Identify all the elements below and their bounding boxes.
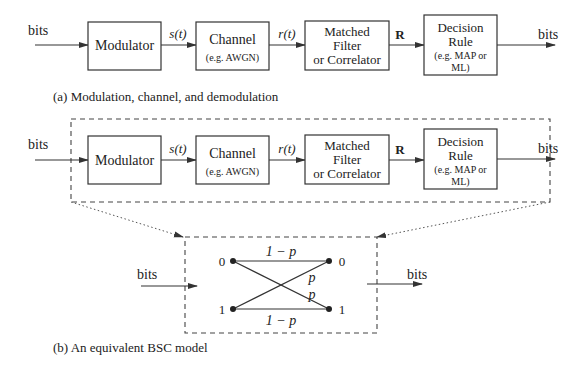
channel-sub-label: (e.g. AWGN)	[206, 52, 259, 64]
bsc-node-left-0	[230, 258, 236, 264]
channel-label: Channel	[209, 32, 256, 47]
output-bits-label-b: bits	[538, 141, 558, 156]
bsc-node-left-1	[230, 306, 236, 312]
decision-rule-b-line1: Decision	[437, 134, 484, 149]
bsc-right-label-0: 0	[339, 254, 346, 269]
matched-filter-b-line1: Matched	[324, 138, 370, 153]
bsc-left-label-0: 0	[219, 254, 226, 269]
decision-rule-b-line2: Rule	[448, 148, 473, 163]
s-t-label-b: s(t)	[169, 141, 186, 156]
bsc-input-bits-label: bits	[137, 267, 157, 282]
r-t-label: r(t)	[278, 26, 295, 41]
bsc-cross-prob-label-2: p	[308, 287, 316, 302]
decision-rule-line1: Decision	[437, 20, 484, 35]
channel-label-b: Channel	[209, 146, 256, 161]
matched-filter-line1: Matched	[324, 24, 370, 39]
bsc-left-label-1: 1	[219, 302, 226, 317]
caption-b: (b) An equivalent BSC model	[53, 340, 208, 355]
zoom-line-right	[377, 202, 550, 237]
decision-rule-sub1: (e.g. MAP or	[434, 50, 487, 62]
bsc-cross-prob-label-1: p	[308, 270, 316, 285]
bsc-diagram: bits Modulator s(t) Channel (e.g. AWGN) …	[0, 0, 584, 366]
matched-filter-line3: or Correlator	[313, 52, 381, 67]
decision-rule-sub2: ML)	[451, 62, 469, 74]
part-b-chain: bits Modulator s(t) Channel (e.g. AWGN) …	[28, 119, 558, 237]
input-bits-label: bits	[28, 23, 48, 38]
r-vector-label: R	[395, 27, 405, 42]
modulator-label-b: Modulator	[95, 153, 154, 168]
bsc-top-prob-label: 1 − p	[266, 244, 296, 259]
matched-filter-b-line3: or Correlator	[313, 166, 381, 181]
r-t-label-b: r(t)	[278, 141, 295, 156]
bsc-node-right-0	[326, 258, 332, 264]
zoom-line-left	[71, 202, 183, 237]
decision-rule-line2: Rule	[448, 34, 473, 49]
output-bits-label: bits	[538, 27, 558, 42]
bsc-output-bits-label: bits	[407, 267, 427, 282]
part-a-diagram: bits Modulator s(t) Channel (e.g. AWGN) …	[28, 15, 558, 104]
s-t-label: s(t)	[169, 26, 186, 41]
bsc-bottom-prob-label: 1 − p	[266, 313, 296, 328]
input-bits-label-b: bits	[28, 137, 48, 152]
decision-rule-b-sub1: (e.g. MAP or	[434, 164, 487, 176]
caption-a: (a) Modulation, channel, and demodulatio…	[53, 89, 279, 104]
r-vector-label-b: R	[395, 142, 405, 157]
modulator-label: Modulator	[95, 38, 154, 53]
decision-rule-b-sub2: ML)	[451, 176, 469, 188]
matched-filter-b-line2: Filter	[333, 152, 362, 167]
bsc-right-label-1: 1	[339, 302, 346, 317]
bsc-node-right-1	[326, 306, 332, 312]
matched-filter-line2: Filter	[333, 38, 362, 53]
bsc-model: bits bits 0 1 0 1 1 − p 1 − p p p	[137, 237, 427, 333]
channel-sub-label-b: (e.g. AWGN)	[206, 166, 259, 178]
